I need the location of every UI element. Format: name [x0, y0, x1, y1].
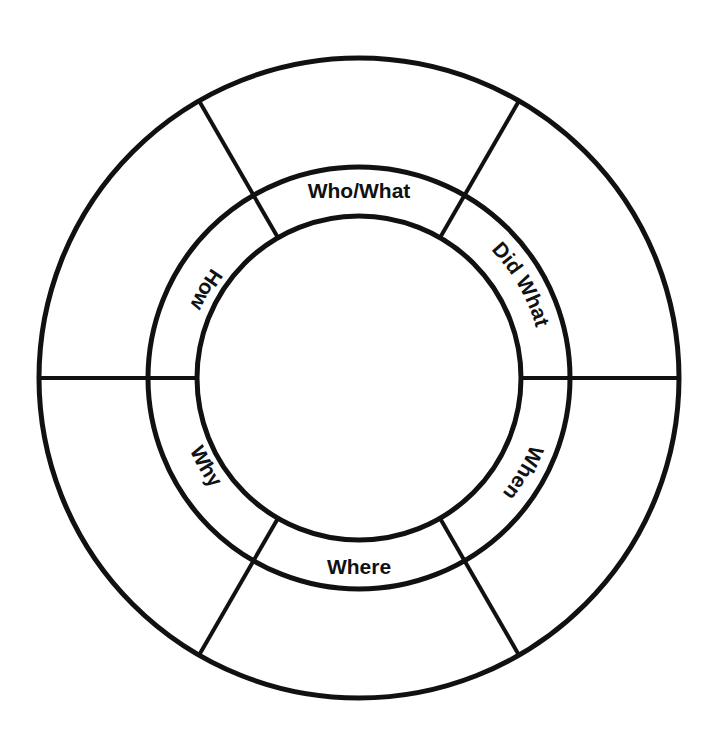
question-wheel-graphic: Who/WhatDid WhatWhenWhereWhyHow	[0, 0, 716, 755]
segment-label-who-what: Who/What	[308, 179, 411, 202]
wheel-diagram-canvas: Who/WhatDid WhatWhenWhereWhyHow	[0, 0, 716, 755]
segment-label-where: Where	[327, 555, 391, 578]
